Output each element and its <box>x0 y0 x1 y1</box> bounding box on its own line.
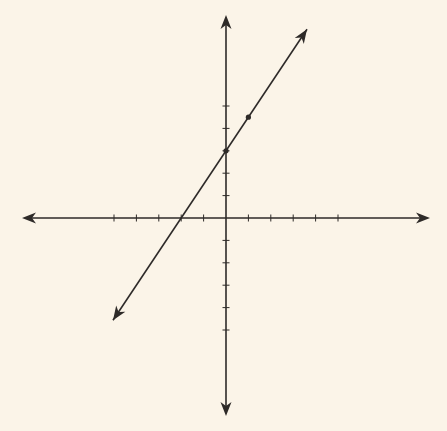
data-point <box>223 148 228 153</box>
data-point <box>246 115 251 120</box>
plotted-line <box>113 29 307 320</box>
axes <box>22 15 430 416</box>
line-segment <box>113 29 307 320</box>
coordinate-plane <box>0 0 447 431</box>
line-lower-arrow-icon <box>113 306 125 321</box>
line-upper-arrow-icon <box>295 29 307 44</box>
